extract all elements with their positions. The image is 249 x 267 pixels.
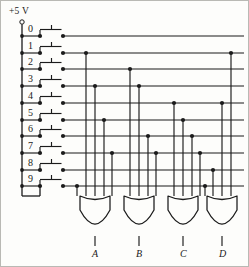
tap-junction-C-6	[190, 134, 194, 138]
switch-right-terminal-8	[61, 168, 65, 172]
rail-junction-8	[20, 168, 24, 172]
circuit-diagram-sheet: +5 V 0123456789 ABCD	[0, 0, 249, 267]
supply-terminal-circle	[20, 20, 24, 24]
switch-right-terminal-2	[61, 67, 65, 71]
rail-junction-0	[20, 34, 24, 38]
tap-junction-C-7	[198, 151, 202, 155]
or-gate-C	[168, 196, 198, 224]
switch-left-terminal-7	[38, 151, 42, 155]
tap-junction-B-7	[154, 151, 158, 155]
switch-right-terminal-1	[61, 51, 65, 55]
switch-right-terminal-6	[61, 134, 65, 138]
switch-left-terminal-4	[38, 101, 42, 105]
rail-junction-3	[20, 84, 24, 88]
tap-junction-D-1	[229, 51, 233, 55]
rail-junction-6	[20, 134, 24, 138]
switch-left-terminal-2	[38, 67, 42, 71]
tap-junction-B-2	[128, 67, 132, 71]
switch-right-terminal-3	[61, 84, 65, 88]
decimal-input-label-7: 7	[28, 141, 33, 151]
decimal-input-label-3: 3	[28, 74, 33, 84]
decimal-input-label-1: 1	[28, 41, 33, 51]
switch-left-terminal-8	[38, 168, 42, 172]
decimal-input-label-0: 0	[28, 24, 33, 34]
tap-junction-A-5	[102, 118, 106, 122]
rail-junction-1	[20, 51, 24, 55]
bcd-output-label-C: C	[180, 249, 187, 259]
or-gate-group	[80, 196, 237, 246]
switch-left-terminal-0	[38, 34, 42, 38]
tap-junction-A-3	[93, 84, 97, 88]
rail-junction-7	[20, 151, 24, 155]
tap-junction-A-7	[110, 151, 114, 155]
switch-right-terminal-0	[61, 34, 65, 38]
switch-right-terminal-7	[61, 151, 65, 155]
rail-junction-5	[20, 118, 24, 122]
supply-voltage-label: +5 V	[9, 7, 29, 17]
switch-group	[38, 25, 65, 188]
tap-junction-D-8	[211, 168, 215, 172]
bcd-output-label-D: D	[219, 249, 226, 259]
decimal-input-label-2: 2	[28, 57, 33, 67]
switch-left-terminal-6	[38, 134, 42, 138]
tap-junction-A-9	[75, 184, 79, 188]
tap-junction-B-3	[137, 84, 141, 88]
decimal-input-label-9: 9	[28, 174, 33, 184]
tap-wires-group	[77, 53, 231, 196]
or-gate-B	[124, 196, 154, 224]
rail-junction-9	[20, 184, 24, 188]
switch-right-terminal-5	[61, 118, 65, 122]
decimal-input-label-8: 8	[28, 158, 33, 168]
bcd-output-label-A: A	[92, 249, 98, 259]
switch-right-terminal-4	[61, 101, 65, 105]
rail-junction-2	[20, 67, 24, 71]
bcd-output-label-B: B	[136, 249, 142, 259]
switch-left-terminal-9	[38, 184, 42, 188]
circuit-schematic-canvas	[0, 0, 249, 267]
tap-junction-B-6	[146, 134, 150, 138]
switch-right-terminal-9	[61, 184, 65, 188]
bus-lines-group	[63, 36, 244, 186]
rail-junction-4	[20, 101, 24, 105]
switch-left-terminal-5	[38, 118, 42, 122]
tap-junction-A-1	[84, 51, 88, 55]
switch-left-terminal-3	[38, 84, 42, 88]
tap-junction-C-5	[181, 118, 185, 122]
decimal-input-label-5: 5	[28, 108, 33, 118]
decimal-input-label-4: 4	[28, 91, 33, 101]
switch-left-terminal-1	[38, 51, 42, 55]
tap-junction-D-9	[203, 184, 207, 188]
decimal-input-label-6: 6	[28, 124, 33, 134]
or-gate-D	[207, 196, 237, 224]
or-gate-A	[80, 196, 110, 224]
tap-junction-C-4	[172, 101, 176, 105]
tap-junction-D-4	[220, 101, 224, 105]
